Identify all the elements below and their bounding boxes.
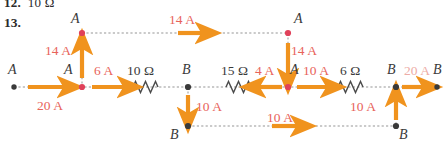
current-label-10a-b1-down: 10 A [196, 99, 222, 115]
node-dot-right-end [434, 84, 439, 89]
node-dot-top-right [285, 30, 291, 36]
figure-canvas: 12.10 Ω 13. [0, 0, 447, 146]
current-label-6a: 6 A [94, 63, 113, 79]
current-label-20a-left: 20 A [37, 98, 63, 114]
current-label-14a-down: 14 A [291, 43, 317, 59]
node-label-main-b1: B [182, 62, 191, 78]
node-label-left-end: A [8, 62, 17, 78]
current-label-4a: 4 A [255, 63, 274, 79]
current-label-10a-a2-right: 10 A [303, 63, 329, 79]
resistor-symbol-10-ohm [133, 82, 158, 93]
node-label-bottom-right: B [399, 127, 408, 143]
node-dot-top-left [79, 30, 85, 36]
node-label-main-a1: A [64, 62, 73, 78]
node-dot-main-b2 [393, 84, 399, 90]
node-dot-left-end [11, 84, 16, 89]
resistor-label-10-ohm: 10 Ω [127, 63, 154, 79]
node-dot-bottom-left [185, 123, 191, 129]
current-label-14a-up: 14 A [45, 43, 71, 59]
node-label-top-right: A [294, 11, 303, 27]
node-dot-main-a2 [285, 84, 291, 90]
current-label-10a-right-up: 10 A [350, 99, 376, 115]
node-label-right-end: B [433, 62, 442, 78]
node-label-bottom-left: B [170, 127, 179, 143]
current-label-10a-bottom: 10 A [267, 110, 293, 126]
resistor-label-6-ohm: 6 Ω [340, 63, 360, 79]
node-dot-main-a1 [79, 84, 85, 90]
current-label-14a-top: 14 A [169, 12, 195, 28]
node-label-main-b2: B [387, 62, 396, 78]
resistor-label-15-ohm: 15 Ω [221, 63, 248, 79]
current-label-20a-right: 20 A [404, 63, 430, 79]
node-dot-main-b1 [185, 84, 191, 90]
node-label-main-a2: A [290, 62, 299, 78]
node-label-top-left: A [71, 11, 80, 27]
